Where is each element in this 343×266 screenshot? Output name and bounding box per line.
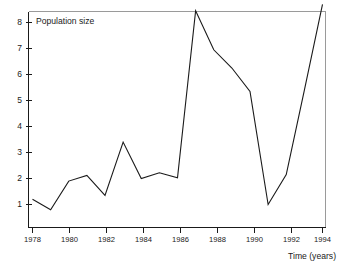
plot-annotation-population-size: Population size [36,16,95,26]
y-tick-label: 3 [17,147,22,157]
x-tick-label: 1986 [172,235,189,244]
screenshot-root: 1 2 3 4 5 6 7 8 [0,0,343,266]
y-tick-label: 5 [17,95,22,105]
x-axis-title: Time (years) [288,251,336,261]
x-tick-label: 1984 [135,235,152,244]
y-tick-label: 2 [17,173,22,183]
y-tick-label: 4 [17,121,22,131]
x-tick-label: 1988 [209,235,226,244]
x-axis-tick-labels: 1978 1980 1982 1984 1986 1988 1990 1992 … [24,235,331,244]
population-line-chart: 1 2 3 4 5 6 7 8 [0,0,343,266]
x-tick-label: 1994 [314,235,331,244]
chart-svg: 1 2 3 4 5 6 7 8 [0,0,343,266]
x-tick-label: 1990 [246,235,263,244]
x-tick-label: 1982 [98,235,115,244]
y-tick-label: 8 [17,17,22,27]
y-tick-label: 6 [17,69,22,79]
x-tick-label: 1978 [24,235,41,244]
y-tick-label: 1 [17,199,22,209]
x-tick-label: 1992 [283,235,300,244]
x-tick-label: 1980 [61,235,78,244]
y-tick-label: 7 [17,43,22,53]
chart-background [0,0,343,266]
